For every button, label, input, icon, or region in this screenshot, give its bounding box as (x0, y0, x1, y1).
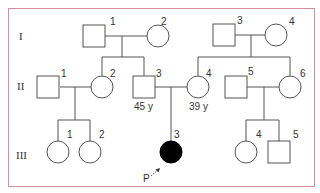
label-II1: 1 (61, 68, 67, 79)
proband-arrow-head (156, 168, 161, 173)
generation-label-III: III (16, 149, 27, 161)
individual-II4-female (187, 76, 209, 98)
individual-II6-female (279, 76, 301, 98)
label-III5: 5 (293, 129, 299, 140)
individual-III5-male (268, 141, 290, 163)
label-II5: 5 (248, 66, 254, 77)
individual-III4-female (235, 141, 257, 163)
individual-III1-female (47, 141, 69, 163)
individual-I2-female (147, 25, 169, 47)
label-II4: 4 (206, 68, 212, 79)
label-III3: 3 (174, 129, 180, 140)
individual-II2-female (91, 76, 113, 98)
label-III4: 4 (256, 129, 262, 140)
label-II3: 3 (156, 68, 162, 79)
pedigree-diagram: I II III (0, 0, 320, 193)
label-I2: 2 (161, 16, 167, 27)
label-III2: 2 (99, 129, 105, 140)
individual-II5-male (225, 76, 247, 98)
label-III1: 1 (67, 129, 73, 140)
proband-label: P (143, 173, 150, 184)
generation-label-II: II (17, 80, 25, 92)
label-II2: 2 (110, 68, 116, 79)
label-I4: 4 (289, 16, 295, 27)
individual-I3-male (213, 24, 235, 46)
generation-label-I: I (19, 30, 23, 42)
age-II4: 39 y (189, 101, 208, 112)
label-I1: 1 (110, 16, 116, 27)
individual-III3-female-affected-proband (160, 141, 182, 163)
label-I3: 3 (237, 15, 243, 26)
individual-II1-male (37, 76, 59, 98)
label-II6: 6 (300, 68, 306, 79)
age-II3: 45 y (134, 101, 153, 112)
individual-I4-female (265, 24, 287, 46)
individual-III2-female (79, 141, 101, 163)
individual-I1-male (83, 25, 105, 47)
individual-II3-male (133, 76, 155, 98)
